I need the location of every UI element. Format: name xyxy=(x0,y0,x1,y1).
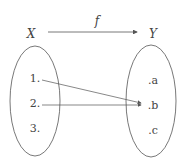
domain-element-3: 3. xyxy=(30,122,41,135)
codomain-element-a: .a xyxy=(148,74,158,87)
function-label: f xyxy=(94,14,102,28)
function-mapping-diagram: f X Y 1. 2. 3. .a .b .c xyxy=(0,0,185,168)
domain-element-1: 1. xyxy=(30,72,41,85)
codomain-label: Y xyxy=(149,27,158,41)
codomain-element-b: .b xyxy=(148,99,159,112)
domain-label: X xyxy=(26,27,36,41)
domain-element-2: 2. xyxy=(30,97,41,110)
codomain-element-c: .c xyxy=(148,124,158,137)
